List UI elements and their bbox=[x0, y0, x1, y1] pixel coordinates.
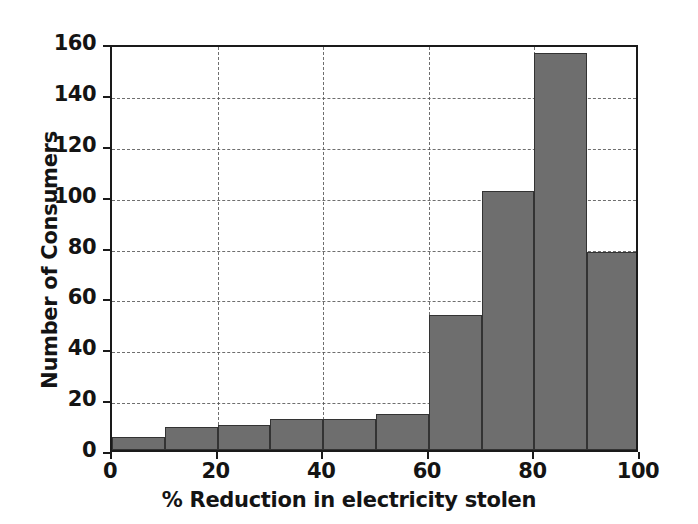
bar-70-80 bbox=[482, 191, 535, 450]
x-tick-label-40: 40 bbox=[281, 459, 361, 483]
bar-30-40 bbox=[270, 419, 323, 450]
y-tick-mark-20 bbox=[103, 401, 110, 403]
bar-20-30 bbox=[218, 425, 271, 450]
histogram-bars bbox=[112, 47, 636, 450]
x-tick-mark-60 bbox=[427, 452, 429, 459]
x-tick-label-60: 60 bbox=[387, 459, 467, 483]
bar-50-60 bbox=[376, 414, 429, 450]
x-tick-label-80: 80 bbox=[492, 459, 572, 483]
bar-60-70 bbox=[429, 315, 482, 450]
x-tick-label-100: 100 bbox=[598, 459, 678, 483]
y-tick-mark-60 bbox=[103, 299, 110, 301]
x-tick-label-0: 0 bbox=[70, 459, 150, 483]
y-tick-mark-120 bbox=[103, 147, 110, 149]
x-tick-mark-80 bbox=[532, 452, 534, 459]
x-tick-mark-0 bbox=[110, 452, 112, 459]
bar-90-100 bbox=[587, 252, 638, 450]
y-axis-label: Number of Consumers bbox=[38, 60, 62, 460]
y-tick-mark-0 bbox=[103, 452, 110, 454]
y-tick-mark-40 bbox=[103, 350, 110, 352]
bar-40-50 bbox=[323, 419, 376, 450]
bar-80-90 bbox=[534, 53, 587, 450]
x-tick-mark-40 bbox=[321, 452, 323, 459]
bar-0-10 bbox=[112, 437, 165, 450]
bar-10-20 bbox=[165, 427, 218, 450]
x-axis-label: % Reduction in electricity stolen bbox=[0, 488, 698, 512]
x-tick-mark-100 bbox=[638, 452, 640, 459]
y-tick-mark-80 bbox=[103, 249, 110, 251]
y-tick-label-160: 160 bbox=[0, 31, 96, 55]
y-tick-mark-100 bbox=[103, 198, 110, 200]
y-tick-mark-140 bbox=[103, 96, 110, 98]
x-tick-label-20: 20 bbox=[176, 459, 256, 483]
x-tick-mark-20 bbox=[216, 452, 218, 459]
plot-area bbox=[110, 45, 638, 452]
y-tick-mark-160 bbox=[103, 45, 110, 47]
histogram-figure: 020406080100120140160 020406080100 % Red… bbox=[0, 0, 698, 524]
